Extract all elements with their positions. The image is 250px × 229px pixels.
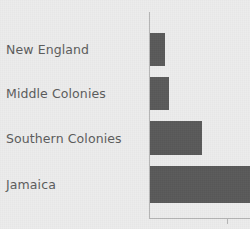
bar-middle-colonies xyxy=(149,77,169,110)
x-axis-line xyxy=(149,218,250,219)
category-label-jamaica: Jamaica xyxy=(6,179,56,192)
bar-chart: New England Middle Colonies Southern Col… xyxy=(0,0,250,229)
category-label-southern-colonies: Southern Colonies xyxy=(6,133,122,146)
y-axis-line xyxy=(149,12,150,218)
bar-southern-colonies xyxy=(149,121,202,155)
category-label-middle-colonies: Middle Colonies xyxy=(6,88,106,101)
category-label-new-england: New England xyxy=(6,44,89,57)
bar-new-england xyxy=(149,33,165,66)
bar-jamaica xyxy=(149,166,250,203)
x-axis-tick xyxy=(227,219,228,224)
